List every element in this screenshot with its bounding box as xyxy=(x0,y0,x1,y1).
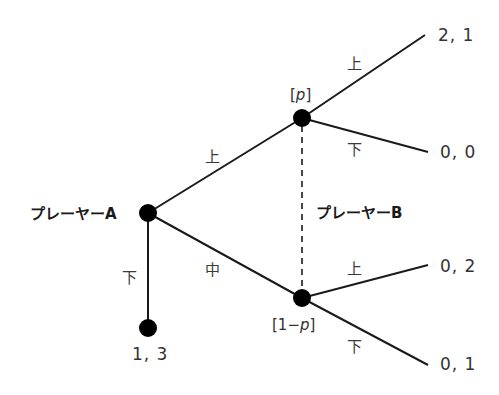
move-label-b-upper-up: 上 xyxy=(347,55,362,73)
payoff-up-up: 2, 1 xyxy=(438,25,474,45)
belief-upper-close: ] xyxy=(305,86,311,104)
payoff-a-down: 1, 3 xyxy=(132,344,168,364)
edge-b-lower-down xyxy=(302,298,428,365)
node-player-b-lower xyxy=(293,289,311,307)
player-a-label: プレーヤーA xyxy=(30,205,117,223)
payoff-mid-down: 0, 1 xyxy=(440,354,476,374)
payoff-mid-up: 0, 2 xyxy=(440,256,476,276)
edge-a-up xyxy=(148,118,302,213)
move-label-b-upper-down: 下 xyxy=(347,141,362,159)
belief-upper: [p] xyxy=(290,86,311,104)
move-label-a-down: 下 xyxy=(122,269,137,287)
edge-a-middle xyxy=(148,213,302,298)
edge-b-lower-up xyxy=(302,265,428,298)
move-label-b-lower-up: 上 xyxy=(347,260,362,278)
belief-lower-var: p xyxy=(299,316,310,334)
belief-lower-close: ] xyxy=(310,316,316,334)
player-b-label: プレーヤーB xyxy=(316,204,402,222)
payoff-up-down: 0, 0 xyxy=(440,142,476,162)
move-label-a-up: 上 xyxy=(205,148,220,166)
belief-upper-var: p xyxy=(295,86,306,104)
node-terminal-a-down xyxy=(139,319,157,337)
belief-lower-open: [1− xyxy=(272,316,300,334)
node-player-a xyxy=(139,204,157,222)
edge-b-upper-up xyxy=(302,35,425,118)
node-player-b-upper xyxy=(293,109,311,127)
move-label-a-middle: 中 xyxy=(205,261,220,279)
belief-lower: [1−p] xyxy=(272,316,315,334)
edge-b-upper-down xyxy=(302,118,428,152)
game-tree-diagram: プレーヤーA プレーヤーB 上 中 下 上 下 上 下 [p] [1−p] 2,… xyxy=(0,0,499,395)
move-label-b-lower-down: 下 xyxy=(347,338,362,356)
